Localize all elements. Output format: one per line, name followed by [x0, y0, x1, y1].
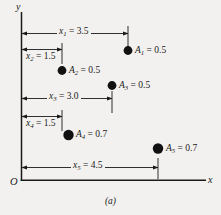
point-marker-a5: [153, 143, 163, 153]
point-label-a2: A2 = 0.5: [69, 66, 100, 76]
dimension-label-x5: x5 = 4.5: [71, 161, 105, 171]
dimension-label-x1: x1 = 3.5: [57, 27, 91, 37]
x-axis-label: x: [208, 175, 212, 185]
point-marker-a2: [58, 66, 67, 75]
point-marker-a4: [63, 130, 73, 140]
diagram-canvas: [0, 0, 221, 215]
point-label-a1: A1 = 0.5: [135, 46, 166, 56]
figure-caption: (a): [0, 197, 221, 207]
dimension-label-x4: x4 = 1.5: [26, 119, 56, 129]
dimension-label-x2: x2 = 1.5: [26, 52, 56, 62]
y-axis-label: y: [16, 2, 20, 12]
point-label-a4: A4 = 0.7: [76, 130, 107, 140]
point-marker-a3: [108, 81, 117, 90]
point-label-a5: A5 = 0.7: [166, 144, 197, 154]
origin-label: O: [10, 177, 18, 188]
figure-panel: y x O x1 = 3.5 x2 = 1.5 x3 = 3.0 x4 = 1.…: [0, 0, 221, 215]
dimension-label-x3: x3 = 3.0: [47, 92, 81, 102]
point-label-a3: A3 = 0.5: [119, 81, 150, 91]
point-marker-a1: [124, 46, 133, 55]
